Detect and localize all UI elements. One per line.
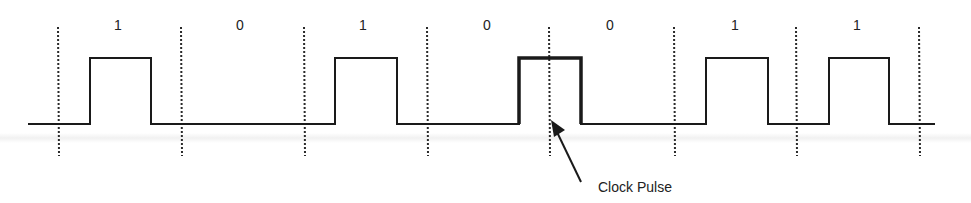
bit-label: 1	[731, 17, 739, 33]
bit-label: 1	[853, 17, 861, 33]
bit-label: 0	[483, 17, 491, 33]
bit-label: 0	[606, 17, 614, 33]
arrow-shaft	[556, 130, 581, 182]
bit-label: 1	[359, 17, 367, 33]
clock-boundary-line	[549, 27, 550, 156]
clock-boundary-line	[674, 27, 675, 156]
clock-boundary-line	[304, 27, 305, 156]
clock-boundary-line	[796, 27, 797, 156]
arrow-head-icon	[551, 120, 565, 137]
bit-label: 0	[236, 17, 244, 33]
clock-boundary-line	[427, 27, 428, 156]
clock-boundary-line	[181, 27, 182, 156]
clock-pulse-label: Clock Pulse	[598, 179, 672, 195]
clock-boundary-line	[58, 27, 59, 156]
signal-waveform	[28, 58, 935, 124]
bit-label: 1	[114, 17, 122, 33]
clock-boundary-line	[919, 27, 920, 156]
